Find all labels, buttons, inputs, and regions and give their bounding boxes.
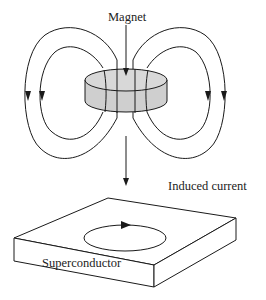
arrow-down-icon xyxy=(221,91,227,101)
motion-arrow-head-icon xyxy=(123,178,129,186)
superconductor-label: Superconductor xyxy=(42,256,122,270)
magnet-label: Magnet xyxy=(108,10,147,24)
magnet-superconductor-diagram: Magnet Induced current Superconductor xyxy=(0,0,266,300)
induced-current-label: Induced current xyxy=(168,179,247,193)
superconductor-slab xyxy=(14,198,236,287)
arrow-down-icon xyxy=(25,91,31,101)
